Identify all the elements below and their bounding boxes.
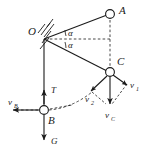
diagram-canvas: O A C B α α T G v B v 1 v 2 v C: [0, 0, 143, 155]
svg-text:v: v: [130, 80, 134, 90]
label-vector-v1: v 1: [130, 80, 139, 92]
label-point-A: A: [118, 4, 126, 16]
label-vector-vC: v C: [105, 110, 116, 122]
angle-arc-lower: [65, 42, 66, 48]
label-angle-upper: α: [68, 28, 73, 38]
svg-text:v: v: [105, 110, 109, 120]
guide-v2-to-vC: [92, 92, 106, 104]
svg-text:C: C: [111, 116, 116, 122]
vectors: [13, 75, 127, 140]
svg-text:2: 2: [91, 100, 94, 106]
svg-text:1: 1: [136, 86, 139, 92]
physics-diagram: O A C B α α T G v B v 1 v 2 v C: [0, 0, 143, 155]
line-O-C: [44, 39, 107, 71]
line-O-A: [44, 15, 107, 39]
fixed-support-hatching: [38, 19, 54, 49]
svg-text:v: v: [8, 97, 12, 107]
label-point-B: B: [48, 114, 55, 126]
label-vector-T: T: [51, 85, 57, 95]
vector-v2: [91, 76, 107, 91]
svg-text:v: v: [85, 94, 89, 104]
label-angle-lower: α: [68, 40, 73, 50]
label-point-O: O: [28, 25, 36, 37]
guide-v1-to-vC: [112, 84, 127, 104]
label-vector-vB: v B: [8, 97, 18, 109]
label-vector-v2: v 2: [85, 94, 94, 106]
point-A-marker: [106, 10, 115, 19]
vector-v1: [113, 75, 127, 85]
label-point-C: C: [117, 55, 125, 67]
svg-text:B: B: [14, 103, 18, 109]
label-vector-G: G: [51, 136, 58, 146]
